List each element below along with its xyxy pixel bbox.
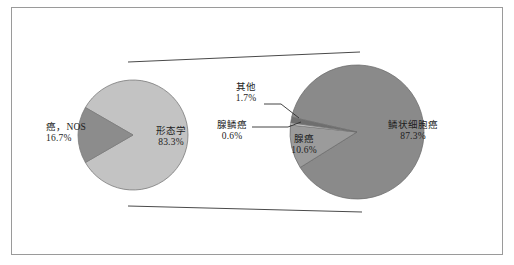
label-scc-value: 87.3% bbox=[372, 131, 454, 142]
label-morphology: 形态学 83.3% bbox=[140, 126, 202, 148]
label-adenocarcinoma: 腺癌 10.6% bbox=[281, 134, 327, 156]
figure-canvas: 癌，NOS 16.7% 形态学 83.3% 其他 1.7% 腺鳞癌 0.6% 腺… bbox=[0, 0, 514, 265]
label-carcinoma-nos-name: 癌，NOS bbox=[46, 122, 108, 133]
label-adenosquamous-name: 腺鳞癌 bbox=[206, 120, 258, 131]
label-carcinoma-nos: 癌，NOS 16.7% bbox=[46, 122, 108, 144]
label-adenocarcinoma-value: 10.6% bbox=[281, 145, 327, 156]
label-carcinoma-nos-value: 16.7% bbox=[46, 133, 108, 144]
label-adenocarcinoma-name: 腺癌 bbox=[281, 134, 327, 145]
label-morphology-value: 83.3% bbox=[140, 137, 202, 148]
label-scc-name: 鳞状细胞癌 bbox=[372, 120, 454, 131]
label-other-value: 1.7% bbox=[222, 93, 270, 104]
label-morphology-name: 形态学 bbox=[140, 126, 202, 137]
label-other-name: 其他 bbox=[222, 82, 270, 93]
label-adenosquamous-value: 0.6% bbox=[206, 131, 258, 142]
label-other: 其他 1.7% bbox=[222, 82, 270, 104]
label-scc: 鳞状细胞癌 87.3% bbox=[372, 120, 454, 142]
label-adenosquamous: 腺鳞癌 0.6% bbox=[206, 120, 258, 142]
